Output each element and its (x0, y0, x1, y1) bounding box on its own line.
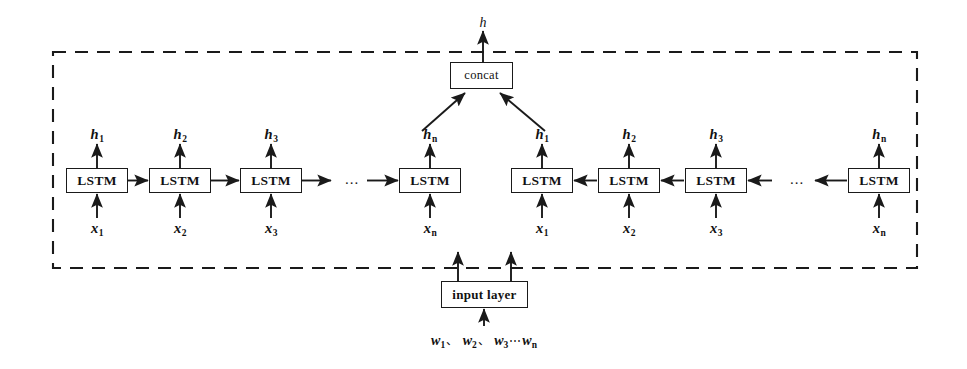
forward-hidden-label-n: hn (423, 126, 436, 143)
backward-input-label-n: xn (873, 220, 886, 237)
forward-lstm-cell-2[interactable]: LSTM (149, 168, 211, 193)
forward-chain-ellipsis: ... (345, 171, 359, 188)
backward-hidden-label-3: h3 (710, 126, 723, 143)
backward-lstm-cell-3[interactable]: LSTM (685, 168, 747, 193)
concat-box-label: concat (464, 68, 498, 83)
forward-input-label-n: xn (424, 220, 437, 237)
concat-box[interactable]: concat (450, 62, 513, 89)
forward-hidden-label-3: h3 (265, 126, 278, 143)
input-layer-label: input layer (452, 287, 516, 303)
lstm-cell-label: LSTM (160, 173, 199, 189)
output-label-h: h (480, 15, 487, 31)
forward-lstm-cell-1[interactable]: LSTM (66, 168, 128, 193)
forward-input-label-1: x1 (91, 220, 103, 237)
lstm-cell-label: LSTM (609, 173, 648, 189)
lstm-cell-label: LSTM (696, 173, 735, 189)
backward-lstm-cell-n[interactable]: LSTM (848, 168, 910, 193)
backward-input-label-2: x2 (623, 220, 635, 237)
forward-hidden-label-1: h1 (91, 126, 104, 143)
backward-chain-ellipsis: ... (790, 171, 804, 188)
forward-lstm-cell-n[interactable]: LSTM (399, 168, 461, 193)
backward-hidden-label-n: hn (872, 126, 885, 143)
lstm-cell-label: LSTM (522, 173, 561, 189)
word-sequence-label: w1、 w2、 w3⋯wn (431, 331, 537, 349)
lstm-cell-label: LSTM (77, 173, 116, 189)
backward-hidden-label-1: h1 (536, 126, 549, 143)
lstm-cell-label: LSTM (410, 173, 449, 189)
bilstm-diagram: h concat LSTM LSTM LSTM LSTM h1 h2 h3 hn… (0, 0, 967, 369)
forward-input-label-3: x3 (265, 220, 277, 237)
backward-input-label-1: x1 (536, 220, 548, 237)
diagram-vector-layer (0, 0, 967, 369)
backward-hidden-label-2: h2 (623, 126, 636, 143)
backward-lstm-cell-2[interactable]: LSTM (598, 168, 660, 193)
input-layer-box[interactable]: input layer (441, 281, 528, 308)
lstm-cell-label: LSTM (859, 173, 898, 189)
backward-lstm-cell-1[interactable]: LSTM (511, 168, 573, 193)
forward-hidden-label-2: h2 (174, 126, 187, 143)
lstm-cell-label: LSTM (251, 173, 290, 189)
forward-input-label-2: x2 (174, 220, 186, 237)
forward-lstm-cell-3[interactable]: LSTM (240, 168, 302, 193)
backward-input-label-3: x3 (710, 220, 722, 237)
